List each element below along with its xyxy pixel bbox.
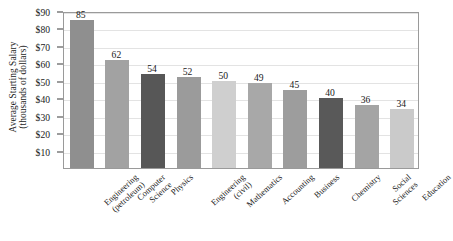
y-axis-tick-label: $30 bbox=[36, 111, 50, 122]
x-axis-category-label-line: Business bbox=[312, 172, 341, 200]
x-axis-category-label: ComputerScience bbox=[135, 172, 174, 210]
x-axis-category-label-line: Chemistry bbox=[349, 172, 382, 203]
y-axis-tick-label: $70 bbox=[36, 41, 50, 52]
x-axis-category-label-line: Mathematics bbox=[245, 172, 285, 209]
bar bbox=[70, 20, 94, 168]
x-axis-category-label: Chemistry bbox=[349, 172, 382, 203]
bar bbox=[319, 98, 343, 168]
x-axis-category-label-line: Education bbox=[420, 172, 453, 203]
x-axis-category-label-line: Physics bbox=[169, 172, 195, 197]
y-axis-tick-label: $90 bbox=[36, 7, 50, 18]
x-axis-category-label-line: Accounting bbox=[279, 172, 316, 206]
bar bbox=[105, 60, 129, 168]
bar bbox=[283, 90, 307, 169]
x-axis-category-label: Business bbox=[312, 172, 341, 200]
x-axis-category-label: Engineering(civil) bbox=[208, 172, 253, 215]
y-axis-tick-label: $40 bbox=[36, 94, 50, 105]
bar bbox=[212, 81, 236, 168]
bar bbox=[177, 77, 201, 168]
y-axis-tick-label: $80 bbox=[36, 24, 50, 35]
bar bbox=[355, 105, 379, 168]
x-axis-category-label: Accounting bbox=[279, 172, 316, 206]
bar bbox=[248, 83, 272, 168]
x-axis-category-labels: Engineering(petroleum)ComputerSciencePhy… bbox=[63, 170, 419, 241]
x-axis-category-label: Education bbox=[420, 172, 453, 203]
y-axis-tick-label: $60 bbox=[36, 59, 50, 70]
bar bbox=[141, 74, 165, 168]
bars-layer bbox=[64, 13, 418, 168]
x-axis-category-label: Physics bbox=[169, 172, 195, 197]
y-axis-tick-labels: $90$80$70$60$50$40$30$20$10 bbox=[0, 0, 58, 241]
x-axis-category-label: Mathematics bbox=[245, 172, 285, 209]
y-axis-tick-label: $10 bbox=[36, 146, 50, 157]
bar bbox=[390, 109, 414, 168]
y-axis-tick-label: $20 bbox=[36, 129, 50, 140]
plot-area bbox=[63, 12, 419, 169]
x-axis-category-label: SocialSciences bbox=[383, 172, 419, 207]
y-axis-tick-label: $50 bbox=[36, 76, 50, 87]
